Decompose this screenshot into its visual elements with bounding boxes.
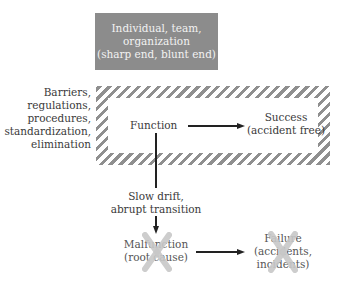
drift-line (155, 133, 157, 188)
barriers-line-5: elimination (0, 138, 91, 151)
failure-line-3: incidents) (246, 258, 320, 271)
actors-line-2: organization (123, 35, 190, 48)
arrow-to-failure-line (196, 251, 238, 253)
actors-box: Individual, team, organization (sharp en… (95, 13, 218, 70)
actors-line-3: (sharp end, blunt end) (97, 48, 216, 61)
malfunction-node: Malfunction (root cause) (115, 238, 197, 264)
barriers-line-4: standardization, (0, 125, 91, 138)
transition-line-2: abrupt transition (100, 203, 212, 216)
transition-line-1: Slow drift, (100, 190, 212, 203)
actors-line-1: Individual, team, (111, 22, 201, 35)
malfunction-line-2: (root cause) (115, 251, 197, 264)
barriers-line-2: regulations, (0, 99, 91, 112)
arrow-right-icon (237, 123, 245, 129)
failure-line-1: Failure (246, 232, 320, 245)
barriers-line-3: procedures, (0, 112, 91, 125)
failure-node: Failure (accidents, incidents) (246, 232, 320, 271)
transition-label: Slow drift, abrupt transition (100, 190, 212, 216)
malfunction-line-1: Malfunction (115, 238, 197, 251)
failure-line-2: (accidents, (246, 245, 320, 258)
arrow-right-icon-2 (237, 249, 245, 255)
success-line-1: Success (246, 111, 326, 124)
function-node: Function (130, 119, 177, 132)
barriers-line-1: Barriers, (0, 86, 91, 99)
arrow-down-icon (153, 226, 159, 234)
barriers-label: Barriers, regulations, procedures, stand… (0, 86, 91, 151)
success-node: Success (accident free) (246, 111, 326, 137)
arrow-to-success-line (188, 125, 238, 127)
success-line-2: (accident free) (246, 124, 326, 137)
